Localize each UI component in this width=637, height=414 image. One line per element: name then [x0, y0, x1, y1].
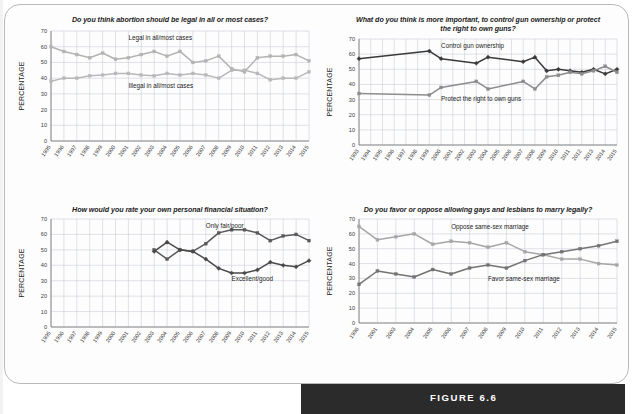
svg-text:60: 60 [349, 231, 355, 237]
svg-text:1998: 1998 [79, 331, 91, 344]
svg-text:2004: 2004 [477, 148, 489, 161]
svg-text:30: 30 [349, 96, 355, 102]
svg-text:10: 10 [41, 123, 47, 129]
svg-text:2014: 2014 [285, 331, 297, 344]
svg-text:1999: 1999 [91, 331, 103, 344]
chart-title-finances: How would you rate your own personal fin… [13, 206, 319, 215]
chart-plot-finances: 0102030405060701995199619971998199920002… [13, 215, 319, 380]
svg-text:2003: 2003 [143, 331, 155, 344]
svg-text:50: 50 [349, 246, 355, 252]
svg-text:30: 30 [349, 276, 355, 282]
svg-text:40: 40 [41, 263, 47, 269]
svg-text:2010: 2010 [514, 327, 526, 340]
svg-text:70: 70 [41, 28, 47, 34]
svg-text:1999: 1999 [91, 145, 103, 158]
svg-text:70: 70 [349, 216, 355, 222]
svg-text:0: 0 [352, 142, 355, 148]
svg-text:1998: 1998 [79, 145, 91, 158]
svg-text:2008: 2008 [477, 327, 489, 340]
chart-title-samesex: Do you favor or oppose allowing gays and… [321, 206, 627, 215]
chart-title-guns: What do you think is more important, to … [321, 16, 627, 35]
svg-text:60: 60 [41, 44, 47, 50]
svg-text:Control gun ownership: Control gun ownership [441, 42, 505, 50]
svg-text:PERCENTAGE: PERCENTAGE [18, 249, 25, 298]
figure-caption-band: FIGURE 6.6 [301, 384, 625, 414]
svg-text:2007: 2007 [458, 327, 470, 340]
svg-text:2012: 2012 [551, 327, 563, 340]
svg-text:2010: 2010 [233, 331, 245, 344]
svg-text:2007: 2007 [195, 145, 207, 158]
svg-text:1997: 1997 [66, 145, 78, 158]
svg-text:2011: 2011 [532, 327, 544, 340]
svg-text:2006: 2006 [182, 331, 194, 344]
svg-text:2002: 2002 [453, 148, 465, 161]
chart-title-abortion: Do you think abortion should be legal in… [13, 16, 319, 25]
chart-guns: What do you think is more important, to … [321, 11, 627, 199]
chart-plot-guns: 0102030405060701993199419951996199719981… [321, 35, 627, 195]
svg-text:2006: 2006 [182, 145, 194, 158]
svg-text:2001: 2001 [442, 148, 454, 161]
svg-text:2013: 2013 [582, 148, 594, 161]
svg-text:1997: 1997 [395, 148, 407, 161]
svg-text:2015: 2015 [606, 327, 618, 340]
svg-text:10: 10 [41, 309, 47, 315]
svg-text:2002: 2002 [130, 331, 142, 344]
svg-text:1999: 1999 [418, 148, 430, 161]
svg-text:PERCENTAGE: PERCENTAGE [326, 67, 333, 116]
svg-text:2006: 2006 [440, 327, 452, 340]
svg-text:2013: 2013 [569, 327, 581, 340]
svg-text:1993: 1993 [348, 148, 360, 161]
svg-text:2008: 2008 [208, 331, 220, 344]
svg-text:2015: 2015 [606, 148, 618, 161]
svg-text:2005: 2005 [169, 145, 181, 158]
svg-text:2004: 2004 [403, 327, 415, 340]
chart-samesex: Do you favor or oppose allowing gays and… [321, 201, 627, 385]
svg-text:2011: 2011 [247, 145, 259, 158]
svg-text:70: 70 [349, 36, 355, 42]
chart-abortion: Do you think abortion should be legal in… [13, 11, 319, 199]
svg-text:2001: 2001 [117, 145, 129, 158]
chart-plot-abortion: 0102030405060701995199619971998199920002… [13, 25, 319, 193]
page-edge-shadow [0, 0, 3, 414]
svg-text:40: 40 [41, 76, 47, 82]
svg-text:PERCENTAGE: PERCENTAGE [18, 62, 25, 111]
svg-text:2012: 2012 [259, 331, 271, 344]
svg-text:Excellent/good: Excellent/good [232, 275, 274, 283]
svg-text:2009: 2009 [495, 327, 507, 340]
svg-text:PERCENTAGE: PERCENTAGE [326, 247, 333, 296]
svg-text:1996: 1996 [383, 148, 395, 161]
svg-text:30: 30 [41, 91, 47, 97]
svg-text:2015: 2015 [298, 331, 310, 344]
svg-text:Legal in all/most cases: Legal in all/most cases [128, 35, 192, 43]
chart-svg-abortion: 0102030405060701995199619971998199920002… [13, 25, 319, 193]
svg-text:60: 60 [41, 232, 47, 238]
svg-text:1996: 1996 [53, 331, 65, 344]
svg-text:1995: 1995 [40, 331, 52, 344]
svg-text:Favor same-sex marriage: Favor same-sex marriage [488, 276, 560, 284]
svg-text:1996: 1996 [53, 145, 65, 158]
svg-text:2003: 2003 [465, 148, 477, 161]
svg-text:2005: 2005 [169, 331, 181, 344]
svg-text:2000: 2000 [430, 148, 442, 161]
svg-text:2011: 2011 [247, 331, 259, 344]
svg-text:1994: 1994 [360, 148, 372, 161]
svg-text:2002: 2002 [130, 145, 142, 158]
svg-text:1995: 1995 [40, 145, 52, 158]
svg-text:2011: 2011 [559, 148, 571, 161]
svg-text:2007: 2007 [512, 148, 524, 161]
svg-text:1998: 1998 [407, 148, 419, 161]
svg-text:1997: 1997 [66, 331, 78, 344]
svg-text:2009: 2009 [220, 145, 232, 158]
svg-text:2010: 2010 [233, 145, 245, 158]
svg-text:2003: 2003 [143, 145, 155, 158]
svg-text:20: 20 [41, 294, 47, 300]
svg-text:Oppose same-sex marriage: Oppose same-sex marriage [451, 224, 529, 232]
chart-plot-samesex: 0102030405060701996200120032004200520062… [321, 215, 627, 373]
svg-text:2015: 2015 [298, 145, 310, 158]
svg-text:10: 10 [349, 127, 355, 133]
svg-text:20: 20 [349, 112, 355, 118]
svg-text:2003: 2003 [385, 327, 397, 340]
svg-text:2005: 2005 [489, 148, 501, 161]
svg-text:40: 40 [349, 261, 355, 267]
svg-text:20: 20 [41, 107, 47, 113]
